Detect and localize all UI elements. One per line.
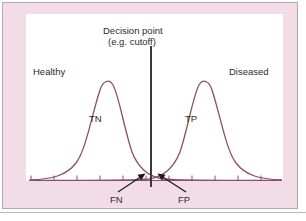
chart-title-line-1: Decision point — [103, 25, 163, 36]
label-healthy-group: Healthy — [33, 66, 65, 77]
curve-diseased — [30, 81, 282, 180]
label-diseased-group: Diseased — [229, 66, 269, 77]
label-true-positive: TP — [185, 113, 197, 124]
label-true-negative: TN — [89, 113, 102, 124]
curve-healthy — [30, 81, 282, 180]
label-false-negative: FN — [110, 194, 123, 205]
fp-arrow — [158, 174, 187, 192]
label-false-positive: FP — [178, 194, 190, 205]
chart-title-line-2: (e.g. cutoff) — [108, 36, 156, 47]
fn-arrow — [118, 174, 146, 192]
figure-root: Decision point (e.g. cutoff) Healthy Dis… — [0, 0, 306, 221]
figure-bottom-rule — [0, 212, 306, 213]
